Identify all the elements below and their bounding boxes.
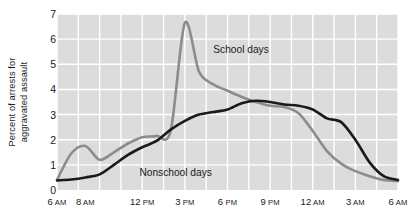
chart-container: Percent of arrests for aggravated assaul… xyxy=(0,0,413,223)
y-tick-label: 7 xyxy=(38,8,56,20)
x-axis-tick-labels: 6 AM8 AM12 PM3 PM6 PM9 PM12 AM3 AM6 AM xyxy=(0,196,413,214)
y-tick-label: 4 xyxy=(38,83,56,95)
y-axis-title-line1: Percent of arrests for xyxy=(5,57,17,146)
x-tick-label: 6 PM xyxy=(218,196,237,207)
y-tick-label: 1 xyxy=(38,159,56,171)
series-label-nonschool-days: Nonschool days xyxy=(139,167,212,178)
x-tick-label: 6 AM xyxy=(389,196,408,207)
y-axis-title: Percent of arrests for aggravated assaul… xyxy=(2,14,32,190)
x-tick-label: 9 PM xyxy=(260,196,279,207)
x-tick-label: 3 PM xyxy=(175,196,194,207)
x-tick-label: 8 AM xyxy=(76,196,95,207)
x-tick-label: 12 PM xyxy=(130,196,155,207)
y-axis-tick-labels: 01234567 xyxy=(34,0,56,223)
y-tick-label: 6 xyxy=(38,33,56,45)
x-tick-label: 12 AM xyxy=(301,196,325,207)
y-tick-label: 3 xyxy=(38,109,56,121)
x-tick-label: 3 AM xyxy=(346,196,365,207)
plot-area xyxy=(0,0,413,223)
y-axis-title-line2: aggravated assault xyxy=(17,57,29,146)
x-tick-label: 6 AM xyxy=(48,196,67,207)
y-tick-label: 2 xyxy=(38,134,56,146)
y-tick-label: 0 xyxy=(38,184,56,196)
series-label-school-days: School days xyxy=(213,44,269,55)
y-tick-label: 5 xyxy=(38,58,56,70)
